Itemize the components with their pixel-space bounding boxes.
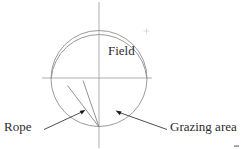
rope-label: Rope [4,120,31,133]
rope-segment-right [83,81,99,128]
scan-artifact-cross [144,28,150,34]
rope-arrowhead [80,110,86,115]
diagram-figure: Field Rope Grazing area [0,0,241,149]
corner-scan-mark [234,146,239,147]
field-label: Field [108,44,135,57]
grazing-leader-line [118,112,167,130]
grazing-area-label: Grazing area [170,120,237,133]
grazing-arrowhead [116,111,122,116]
rope-leader-line [44,111,84,129]
rope-segment-left [68,86,100,128]
